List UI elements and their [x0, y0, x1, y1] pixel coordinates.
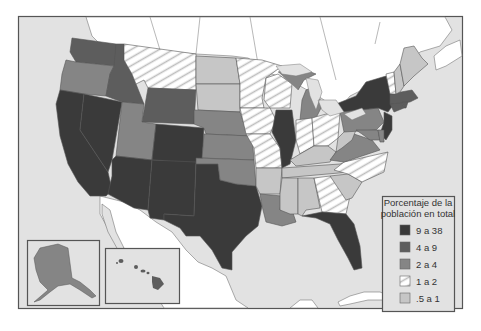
state-arkansas: Arkansas — [256, 168, 282, 194]
legend-item: 2 a 4 — [400, 259, 437, 270]
legend-item: 1 a 2 — [400, 276, 437, 287]
legend-swatch — [400, 259, 410, 269]
legend-item: 9 a 38 — [400, 225, 442, 236]
legend-label: 1 a 2 — [416, 276, 437, 287]
state-mississippi: Mississippi — [280, 178, 298, 214]
legend-title-line2: población en total — [381, 208, 455, 219]
state-oregon: Oregon — [60, 60, 114, 96]
legend-swatch — [400, 225, 410, 235]
alaska-inset — [28, 241, 100, 306]
legend: Porcentaje de la población en total 9 a … — [381, 197, 455, 312]
state-south-dakota: South Dakota — [196, 84, 240, 112]
state-kansas: Kansas — [202, 134, 254, 160]
legend-label: 4 a 9 — [416, 242, 437, 253]
legend-label: .5 a 1 — [416, 293, 440, 304]
legend-label: 2 a 4 — [416, 259, 437, 270]
legend-item: .5 a 1 — [400, 293, 440, 304]
legend-item: 4 a 9 — [400, 242, 437, 253]
legend-swatch — [400, 242, 410, 252]
legend-label: 9 a 38 — [416, 225, 442, 236]
state-north-dakota: North Dakota — [196, 56, 240, 84]
hawaii-inset — [106, 249, 180, 304]
legend-swatch — [400, 293, 410, 303]
population-percentage-map: WashingtonOregonCaliforniaNevadaIdahoMon… — [0, 0, 481, 331]
legend-title-line1: Porcentaje de la — [384, 197, 453, 208]
state-new-mexico: New Mexico — [148, 160, 196, 220]
state-iowa: Iowa — [240, 108, 276, 134]
legend-swatch — [400, 276, 410, 286]
state-wyoming: Wyoming — [142, 88, 196, 124]
